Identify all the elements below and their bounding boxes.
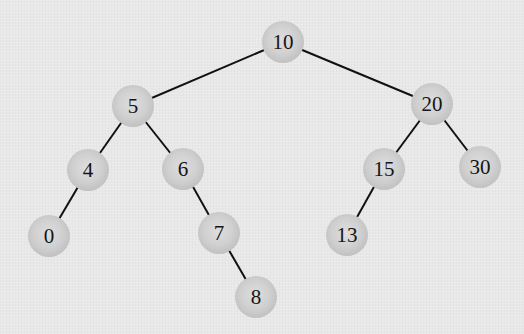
tree-node-13: 13 xyxy=(326,214,368,256)
tree-node-15: 15 xyxy=(363,148,405,190)
tree-node-6: 6 xyxy=(162,148,204,190)
node-label: 30 xyxy=(470,157,491,178)
node-label: 4 xyxy=(83,160,94,181)
edge-10-5 xyxy=(133,42,283,106)
tree-node-5: 5 xyxy=(112,85,154,127)
node-label: 0 xyxy=(44,226,55,247)
node-label: 13 xyxy=(337,225,358,246)
edge-10-20 xyxy=(283,42,432,104)
tree-node-7: 7 xyxy=(198,212,240,254)
tree-node-20: 20 xyxy=(411,83,453,125)
tree-node-8: 8 xyxy=(235,276,277,318)
node-label: 6 xyxy=(178,159,189,180)
node-label: 15 xyxy=(374,159,395,180)
tree-node-10: 10 xyxy=(262,21,304,63)
tree-node-30: 30 xyxy=(459,146,501,188)
node-label: 7 xyxy=(214,223,225,244)
node-label: 20 xyxy=(422,94,443,115)
node-label: 5 xyxy=(128,96,139,117)
node-label: 8 xyxy=(251,287,262,308)
tree-node-4: 4 xyxy=(67,149,109,191)
node-label: 10 xyxy=(273,32,294,53)
tree-diagram-canvas: 10 5 20 4 6 15 30 0 7 13 8 xyxy=(0,0,524,334)
tree-node-0: 0 xyxy=(28,215,70,257)
